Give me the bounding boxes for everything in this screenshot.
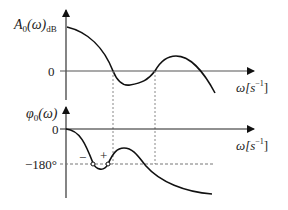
magnitude-curve	[67, 27, 215, 93]
magnitude-x-label: ω[s−1]	[236, 79, 268, 95]
plus-marker: +	[100, 148, 107, 163]
phase-x-label: ω[s−1]	[236, 137, 268, 153]
magnitude-y-label: A0(ω)dB	[13, 17, 57, 34]
crossing-point-minus	[91, 162, 95, 166]
bode-diagram: A0(ω)dB 0 ω[s−1] φ0(ω) 0 −180° − + ω[s−1…	[0, 0, 288, 210]
minus-marker: −	[79, 150, 86, 165]
magnitude-zero-label: 0	[48, 64, 55, 79]
phase-plot: φ0(ω) 0 −180° − + ω[s−1]	[25, 106, 268, 198]
phase-curve	[66, 129, 212, 194]
minus-180-label: −180°	[25, 157, 57, 172]
phase-y-label: φ0(ω)	[26, 106, 58, 123]
magnitude-plot: A0(ω)dB 0 ω[s−1]	[13, 10, 268, 100]
phase-zero-label: 0	[52, 122, 59, 137]
